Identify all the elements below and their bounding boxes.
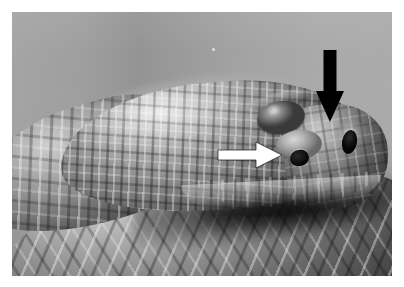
dust-speck bbox=[212, 48, 215, 51]
photograph bbox=[12, 12, 392, 276]
white-right-arrow-icon bbox=[218, 140, 284, 170]
black-down-arrow-icon bbox=[310, 50, 350, 125]
page-root bbox=[0, 0, 404, 287]
